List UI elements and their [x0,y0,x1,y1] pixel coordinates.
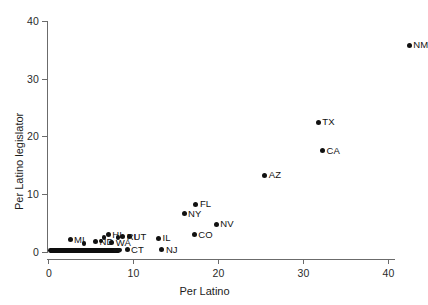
data-point-ca [320,148,325,153]
point-label-ct: CT [131,244,144,255]
data-point [117,248,121,252]
x-tick-label-40: 40 [380,267,397,279]
data-point-az [262,173,267,178]
y-tick-label-40: 40 [20,15,39,27]
x-tick-30 [303,259,304,264]
x-axis-line [47,259,395,260]
y-tick-30 [42,79,47,80]
data-point-ny [182,211,187,216]
data-point [116,235,120,239]
data-point-tx [316,120,321,125]
y-tick-label-30: 30 [20,73,39,85]
y-tick-20 [42,136,47,137]
y-axis-title: Per Latino legislator [13,113,25,210]
data-point-nd [93,239,98,244]
point-label-nm: NM [413,39,428,50]
data-point-ct [125,247,130,252]
data-point-co [192,232,197,237]
y-tick-40 [42,21,47,22]
x-tick-0 [48,259,49,264]
point-label-nv: NV [220,218,233,229]
y-tick-10 [42,194,47,195]
y-axis-line [47,21,48,253]
data-point-mi [68,237,73,242]
x-axis-title: Per Latino [0,285,409,297]
point-label-ca: CA [327,145,340,156]
data-point-il [156,236,161,241]
x-tick-label-10: 10 [125,267,142,279]
data-point [99,239,103,243]
x-tick-10 [133,259,134,264]
x-tick-label-20: 20 [210,267,227,279]
data-point-nj [159,247,164,252]
y-tick-0 [42,252,47,253]
point-label-tx: TX [322,116,334,127]
data-point-fl [193,202,198,207]
point-label-ny: NY [188,208,201,219]
x-tick-label-30: 30 [295,267,312,279]
x-tick-20 [218,259,219,264]
point-label-il: IL [163,232,171,243]
point-label-nj: NJ [166,244,178,255]
point-label-az: AZ [269,169,281,180]
data-point [82,241,86,245]
dense-point-cluster [48,248,121,253]
y-tick-label-0: 0 [20,246,39,258]
x-tick-label-0: 0 [41,267,57,279]
x-tick-40 [388,259,389,264]
point-label-fl: FL [200,198,211,209]
data-point-nm [407,43,412,48]
data-point-nv [214,222,219,227]
point-label-co: CO [198,229,212,240]
